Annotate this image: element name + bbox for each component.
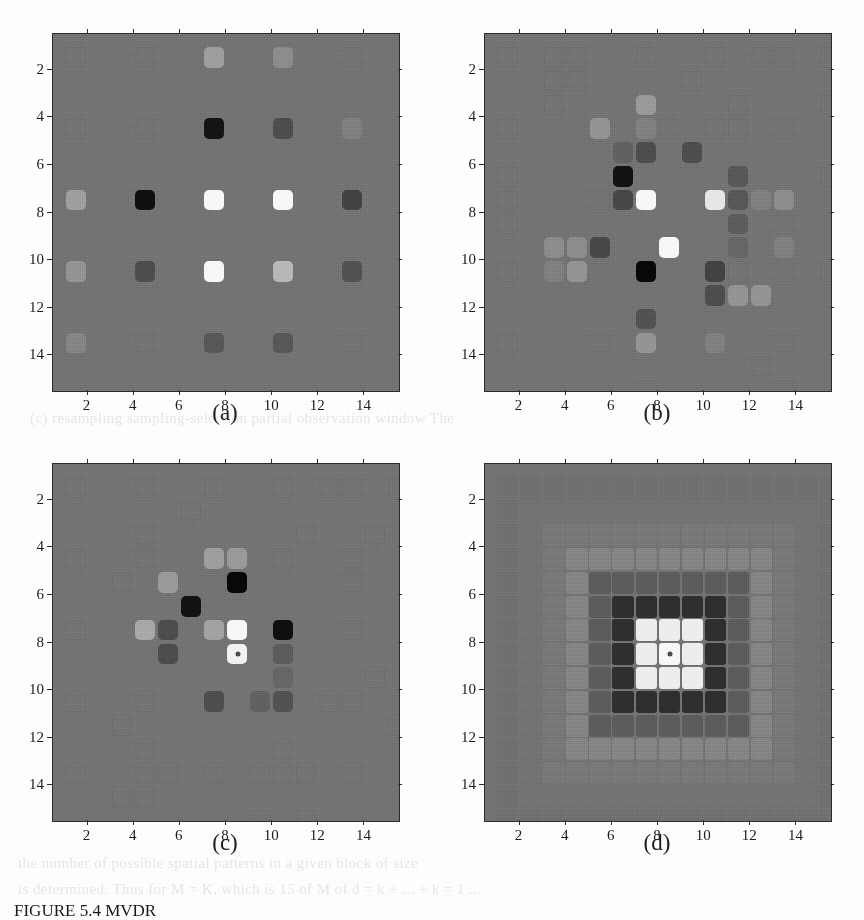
y-tick-mark bbox=[479, 689, 484, 690]
grid-cell bbox=[797, 524, 818, 546]
y-tick-mark bbox=[47, 499, 52, 500]
x-tick-mark bbox=[179, 390, 180, 395]
grid-cell-filled bbox=[751, 190, 771, 211]
grid-cell bbox=[520, 762, 541, 784]
grid-cell bbox=[820, 667, 832, 689]
y-tick-label: 4 bbox=[446, 108, 476, 125]
grid-cell bbox=[520, 477, 541, 499]
grid-cell bbox=[705, 786, 726, 808]
grid-cell bbox=[520, 738, 541, 760]
grid-cell bbox=[566, 738, 587, 760]
grid-cell-filled bbox=[158, 572, 178, 593]
grid-cell-filled bbox=[567, 261, 587, 282]
grid-cell bbox=[682, 786, 703, 808]
grid-cell bbox=[659, 596, 680, 618]
grid-cell bbox=[659, 619, 680, 641]
grid-cell-outline bbox=[66, 548, 86, 569]
grid-cell bbox=[589, 548, 610, 570]
grid-cell bbox=[612, 715, 633, 737]
grid-cell bbox=[612, 572, 633, 594]
grid-cell-filled bbox=[204, 47, 224, 68]
grid-cell bbox=[636, 786, 657, 808]
grid-cell bbox=[774, 500, 795, 522]
grid-cell-filled bbox=[590, 118, 610, 139]
grid-cell bbox=[543, 596, 564, 618]
grid-cell bbox=[636, 691, 657, 713]
grid-cell bbox=[659, 738, 680, 760]
grid-cell bbox=[751, 596, 772, 618]
y-tick-mark-right bbox=[830, 164, 834, 165]
grid-cell-filled bbox=[636, 190, 656, 211]
grid-cell bbox=[612, 524, 633, 546]
grid-cell-filled bbox=[774, 190, 794, 211]
grid-cell bbox=[636, 596, 657, 618]
y-tick-mark bbox=[479, 499, 484, 500]
x-tick-mark-top bbox=[179, 459, 180, 463]
grid-cell bbox=[520, 572, 541, 594]
y-tick-mark bbox=[47, 212, 52, 213]
x-tick-label: 4 bbox=[129, 397, 137, 414]
y-tick-mark-right bbox=[830, 212, 834, 213]
grid-cell bbox=[705, 500, 726, 522]
x-tick-mark bbox=[87, 390, 88, 395]
grid-cell-outline bbox=[498, 166, 518, 187]
grid-cell bbox=[543, 643, 564, 665]
grid-cell-filled bbox=[567, 237, 587, 258]
grid-cell bbox=[636, 548, 657, 570]
y-tick-mark-right bbox=[398, 594, 402, 595]
grid-cell-filled bbox=[728, 166, 748, 187]
grid-cell bbox=[797, 738, 818, 760]
y-tick-mark-right bbox=[830, 784, 834, 785]
x-tick-mark bbox=[271, 820, 272, 825]
grid-cell bbox=[566, 715, 587, 737]
grid-cell-outline bbox=[342, 548, 362, 569]
grid-cell bbox=[659, 715, 680, 737]
grid-cell bbox=[659, 524, 680, 546]
x-tick-mark-top bbox=[133, 459, 134, 463]
grid-cell-filled bbox=[705, 261, 725, 282]
grid-cell bbox=[543, 500, 564, 522]
subplot-label-a: (a) bbox=[212, 400, 238, 426]
grid-cell bbox=[497, 667, 518, 689]
grid-cell-filled bbox=[204, 261, 224, 282]
grid-cell-filled bbox=[705, 285, 725, 306]
grid-cell-filled bbox=[636, 142, 656, 163]
grid-cell-outline bbox=[388, 715, 400, 736]
x-tick-mark bbox=[703, 390, 704, 395]
grid-cell bbox=[636, 762, 657, 784]
y-tick-mark bbox=[47, 307, 52, 308]
y-tick-mark-right bbox=[398, 642, 402, 643]
x-tick-mark-top bbox=[795, 29, 796, 33]
grid-cell-outline bbox=[296, 763, 316, 784]
y-tick-mark-right bbox=[398, 164, 402, 165]
grid-cell-filled bbox=[636, 261, 656, 282]
grid-cell bbox=[659, 810, 680, 822]
grid-cell-filled bbox=[204, 118, 224, 139]
grid-cell bbox=[751, 691, 772, 713]
grid-cell bbox=[728, 643, 749, 665]
grid-cell bbox=[589, 572, 610, 594]
grid-cell bbox=[520, 643, 541, 665]
x-tick-label: 6 bbox=[607, 827, 615, 844]
y-tick-mark bbox=[479, 354, 484, 355]
x-tick-mark bbox=[225, 820, 226, 825]
grid-cell bbox=[566, 691, 587, 713]
grid-cell-filled bbox=[204, 620, 224, 641]
grid-cell-outline bbox=[498, 190, 518, 211]
y-tick-label: 2 bbox=[446, 60, 476, 77]
y-tick-mark bbox=[47, 546, 52, 547]
y-tick-mark-right bbox=[830, 594, 834, 595]
x-tick-mark-top bbox=[565, 29, 566, 33]
grid-cell bbox=[682, 572, 703, 594]
grid-cell bbox=[497, 619, 518, 641]
grid-cell bbox=[497, 596, 518, 618]
y-tick-mark bbox=[479, 69, 484, 70]
x-tick-mark bbox=[271, 390, 272, 395]
grid-cell-outline bbox=[342, 763, 362, 784]
grid-cell bbox=[543, 548, 564, 570]
grid-cell bbox=[612, 643, 633, 665]
y-tick-label: 6 bbox=[14, 155, 44, 172]
y-tick-label: 8 bbox=[446, 203, 476, 220]
grid-cell bbox=[589, 477, 610, 499]
